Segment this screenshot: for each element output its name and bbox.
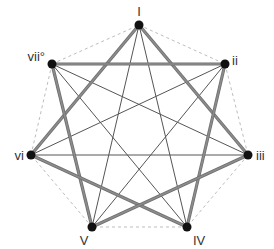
node-dot-iii <box>244 151 253 160</box>
node-dot-vii <box>48 60 57 69</box>
chord-nodes <box>27 21 253 232</box>
node-label-vi: vi <box>15 148 25 163</box>
thick-edge-i-vi <box>31 25 139 155</box>
thin-edge-ii-vi <box>31 64 225 155</box>
node-label-v: V <box>80 233 89 248</box>
node-dot-vi <box>27 151 36 160</box>
node-label-iii: iii <box>256 148 265 163</box>
dashed-edge-vii-i <box>52 25 139 64</box>
node-label-ii: ii <box>232 53 238 68</box>
thin-edges <box>31 25 248 227</box>
node-label-vii: vii° <box>28 49 45 64</box>
chord-labels: IiiiiiIVVvivii° <box>15 4 265 248</box>
node-dot-ii <box>221 60 230 69</box>
node-label-iv: IV <box>193 233 206 248</box>
chord-heptagram-diagram: IiiiiiIVVvivii° <box>0 0 274 249</box>
node-label-i: I <box>137 4 141 19</box>
dashed-edge-i-ii <box>139 25 225 64</box>
node-dot-i <box>135 21 144 30</box>
thick-edge-iii-v <box>92 155 248 227</box>
thin-edge-vii-iii <box>52 64 248 155</box>
heptagon-perimeter-edges <box>31 25 248 227</box>
node-dot-iv <box>183 223 192 232</box>
thick-edges <box>31 25 248 227</box>
node-dot-v <box>88 223 97 232</box>
thick-edge-vi-iv <box>31 155 187 227</box>
